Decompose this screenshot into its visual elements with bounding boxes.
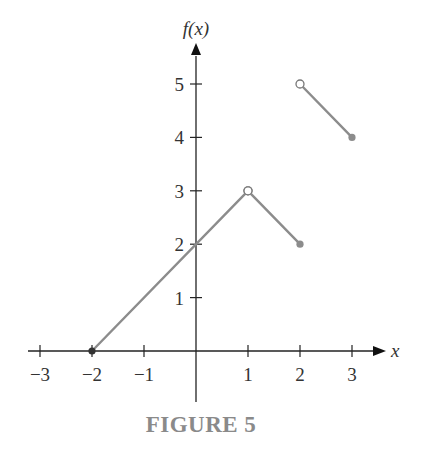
curve-segment <box>248 191 300 244</box>
x-tick-label: −1 <box>134 364 154 385</box>
y-tick-label: 4 <box>175 127 185 148</box>
axis-labels: −3−2−112312345xf(x) <box>30 18 400 385</box>
x-tick-label: 2 <box>295 364 305 385</box>
figure-caption: FIGURE 5 <box>0 412 402 438</box>
y-axis-arrow-icon <box>191 43 201 55</box>
y-axis-label: f(x) <box>183 18 209 40</box>
open-point-marker <box>244 187 252 195</box>
curve-segment <box>92 191 248 351</box>
x-tick-label: −3 <box>30 364 50 385</box>
x-axis-arrow-icon <box>373 346 386 356</box>
y-tick-label: 3 <box>175 181 185 202</box>
curve-segment <box>300 84 352 137</box>
y-tick-label: 1 <box>175 288 185 309</box>
x-tick-label: 1 <box>243 364 253 385</box>
y-tick-label: 2 <box>175 234 185 255</box>
closed-point-marker <box>348 134 355 141</box>
y-tick-label: 5 <box>175 74 185 95</box>
closed-point-marker <box>88 347 95 354</box>
function-graph: −3−2−112312345xf(x) <box>0 0 435 455</box>
open-point-marker <box>296 80 304 88</box>
x-axis-label: x <box>390 340 400 361</box>
x-tick-label: −2 <box>82 364 102 385</box>
x-tick-label: 3 <box>347 364 357 385</box>
closed-point-marker <box>296 241 303 248</box>
function-curves <box>88 80 355 355</box>
axes <box>28 43 386 402</box>
